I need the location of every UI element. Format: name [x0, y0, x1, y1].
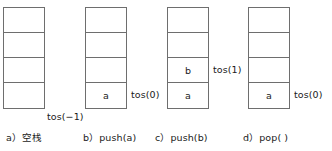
- stack-c: b a: [167, 7, 209, 109]
- tos-pointer-label-a: tos(−1): [47, 111, 84, 122]
- stack-a-cell-2: [4, 33, 44, 58]
- stack-c-cell-2: [168, 33, 208, 58]
- stack-c-cell-3: [168, 8, 208, 33]
- tos-pointer-label-b: tos(0): [131, 89, 160, 100]
- stack-b-cell-3: [86, 8, 126, 33]
- tos-pointer-label-d: tos(0): [294, 89, 323, 100]
- stack-b-cell-0: a: [86, 83, 126, 108]
- stack-d: a: [248, 7, 290, 109]
- caption-panel-a: a）空栈: [6, 130, 42, 144]
- tos-pointer-label-c: tos(1): [213, 64, 242, 75]
- stack-a-cell-3: [4, 8, 44, 33]
- stack-d-cell-1: [249, 58, 289, 83]
- stack-d-cell-2: [249, 33, 289, 58]
- caption-panel-d: d）pop( ): [243, 130, 288, 144]
- stack-d-cell-0: a: [249, 83, 289, 108]
- stack-a: [3, 7, 45, 109]
- stack-a-cell-0: [4, 83, 44, 108]
- caption-panel-c: c）push(b): [155, 130, 208, 144]
- stack-b: a: [85, 7, 127, 109]
- stack-a-cell-1: [4, 58, 44, 83]
- stack-b-cell-1: [86, 58, 126, 83]
- stack-d-cell-3: [249, 8, 289, 33]
- stack-c-cell-0: a: [168, 83, 208, 108]
- stack-c-cell-1: b: [168, 58, 208, 83]
- stack-operations-diagram: tos(−1) a）空栈 a tos(0) b）push(a) b a tos(…: [0, 0, 332, 151]
- caption-panel-b: b）push(a): [83, 130, 136, 144]
- stack-b-cell-2: [86, 33, 126, 58]
